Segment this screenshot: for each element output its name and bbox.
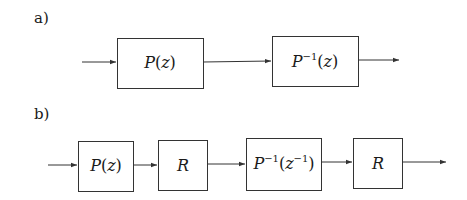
block-p-inverse: P−1(z) bbox=[273, 37, 359, 87]
diagram-b: b) P(z) R P−1(z−1) R bbox=[34, 105, 446, 192]
connector-arrow bbox=[203, 61, 271, 62]
diagram-a: a) P(z) P−1(z) bbox=[34, 9, 399, 89]
diagram-a-label: a) bbox=[34, 9, 49, 27]
block-r-label: R bbox=[371, 154, 384, 173]
block-p-inverse-zinv-label: P−1(z−1) bbox=[252, 153, 314, 173]
block-r: R bbox=[354, 139, 403, 189]
block-p-inverse-label: P−1(z) bbox=[291, 51, 338, 71]
block-diagram: a) P(z) P−1(z) b) P(z) R P−1(z−1) bbox=[0, 0, 467, 200]
block-p-label: P(z) bbox=[89, 156, 122, 175]
block-p-inverse-zinv: P−1(z−1) bbox=[247, 139, 322, 191]
block-p-label: P(z) bbox=[143, 53, 176, 72]
block-p: P(z) bbox=[79, 142, 134, 192]
diagram-b-label: b) bbox=[34, 105, 49, 123]
block-p: P(z) bbox=[118, 39, 204, 89]
block-r-label: R bbox=[176, 156, 189, 175]
block-r: R bbox=[159, 141, 208, 191]
